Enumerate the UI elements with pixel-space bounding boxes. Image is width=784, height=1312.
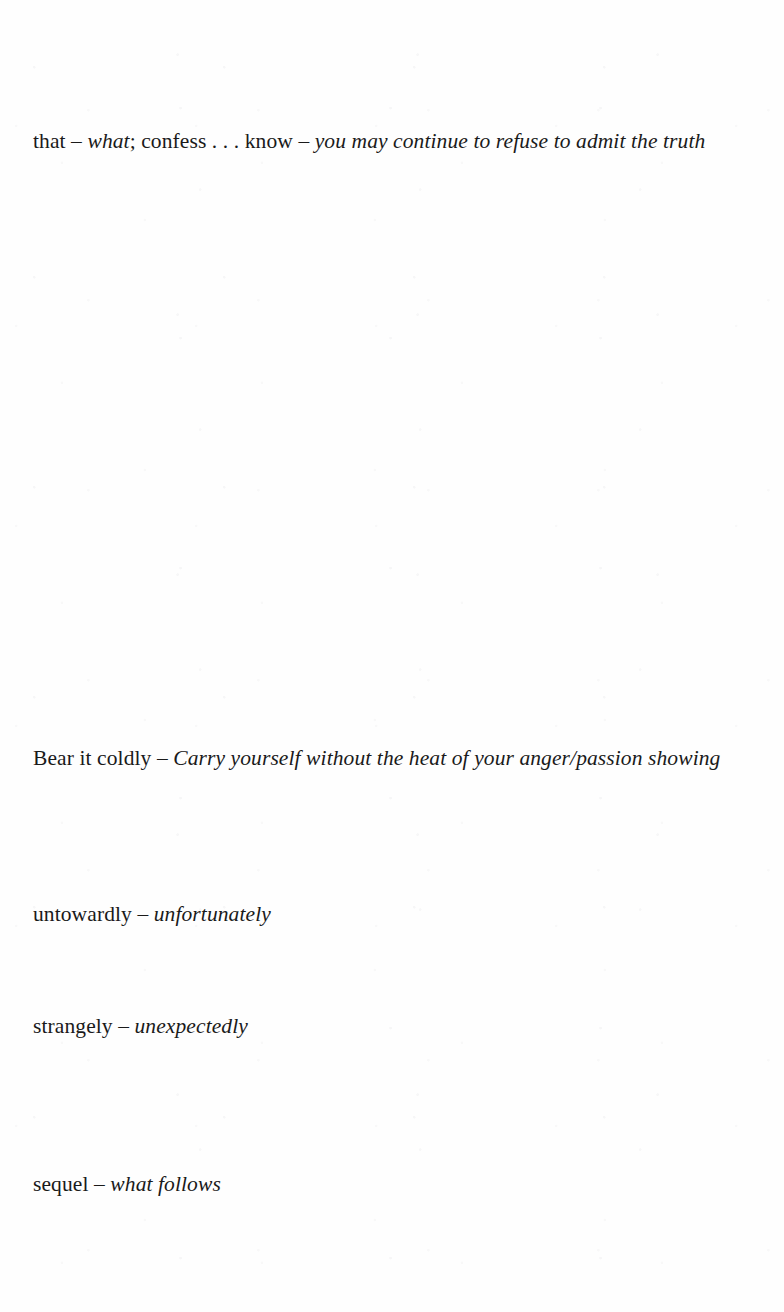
glossary-dash: – bbox=[137, 902, 153, 926]
glossary-definition: you may continue to refuse to admit the … bbox=[315, 129, 706, 153]
glossary-term-tail: ; confess . . . know – bbox=[130, 129, 315, 153]
glossary-term: strangely bbox=[33, 1014, 118, 1038]
glossary-term: Bear it coldly bbox=[33, 746, 157, 770]
glossary-term: sequel bbox=[33, 1172, 94, 1196]
glossary-entry-sequel: sequel – what follows bbox=[33, 1171, 760, 1198]
glossary-definition: unfortunately bbox=[154, 902, 271, 926]
glossary-definition: unexpectedly bbox=[135, 1014, 248, 1038]
glossary-dash: – bbox=[157, 746, 173, 770]
glossary-entry-untowardly: untowardly – unfortunately bbox=[33, 901, 760, 928]
glossary-term-italic-part: what bbox=[87, 129, 129, 153]
glossary-dash: – bbox=[94, 1172, 110, 1196]
glossary-term: that – bbox=[33, 129, 87, 153]
glossary-term: untowardly bbox=[33, 902, 137, 926]
glossary-entry-strangely: strangely – unexpectedly bbox=[33, 1013, 760, 1040]
glossary-definition: Carry yourself without the heat of your … bbox=[173, 746, 720, 770]
glossary-page: that – what; confess . . . know – you ma… bbox=[0, 0, 784, 1312]
glossary-entry-that: that – what; confess . . . know – you ma… bbox=[33, 128, 760, 155]
glossary-dash: – bbox=[118, 1014, 134, 1038]
glossary-entry-bear-it-coldly: Bear it coldly – Carry yourself without … bbox=[33, 745, 760, 772]
glossary-definition: what follows bbox=[110, 1172, 221, 1196]
